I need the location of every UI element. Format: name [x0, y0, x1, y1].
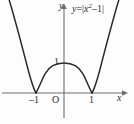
x-axis-label: x	[117, 93, 121, 103]
equation-annotation: y=|x2–1|	[72, 3, 104, 14]
x-tick-label-positive-one: 1	[89, 95, 94, 105]
equation-bar-close: |	[102, 3, 104, 14]
origin-label: O	[52, 95, 59, 105]
x-axis-arrow-icon	[122, 90, 128, 96]
curve-left-branch	[8, 0, 36, 93]
y-axis-label: y	[59, 1, 63, 11]
y-tick-label-one: 1	[54, 57, 59, 67]
coordinate-plot	[0, 0, 134, 124]
equation-minus-one: –1	[92, 3, 102, 14]
graph-figure: y x O –1 1 1 y=|x2–1|	[0, 0, 134, 124]
x-tick-label-negative-one: –1	[29, 95, 39, 105]
